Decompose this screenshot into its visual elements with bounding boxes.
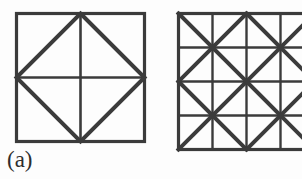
- mesh-diagram-b: [177, 12, 302, 151]
- panel-caption-a: (a): [7, 148, 33, 171]
- figure-container: (a): [0, 0, 302, 179]
- mesh-diagram-a: [15, 12, 146, 143]
- figure-panel-b: (b): [160, 0, 302, 179]
- figure-panel-a: (a): [0, 0, 160, 179]
